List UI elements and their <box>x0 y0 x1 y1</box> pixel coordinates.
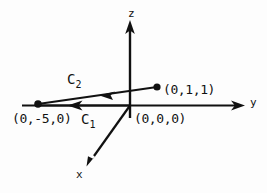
y-axis-label: y <box>250 97 257 108</box>
point-dot-0-minus5-0 <box>34 100 42 108</box>
curve-label-c1: C1 <box>81 112 95 130</box>
point-label-0-minus5-0: (0,-5,0) <box>12 112 71 125</box>
point-dot-0-1-1 <box>153 83 160 90</box>
curve-label-c2: C2 <box>67 72 81 90</box>
curve-label-c1-subscript: 1 <box>89 119 95 130</box>
coordinate-axes-figure: z y x (0,0,0) (0,1,1) (0,-5,0) C1 C2 <box>0 0 267 193</box>
curve-label-c2-subscript: 2 <box>75 79 81 90</box>
axes-and-curves-drawing <box>0 0 267 193</box>
point-label-0-1-1: (0,1,1) <box>163 83 215 96</box>
z-axis-label: z <box>128 8 135 19</box>
z-axis <box>125 20 135 118</box>
point-label-origin: (0,0,0) <box>134 112 186 125</box>
curve-c2 <box>38 87 157 104</box>
x-axis-label: x <box>76 169 83 180</box>
